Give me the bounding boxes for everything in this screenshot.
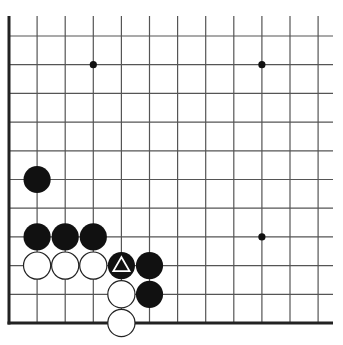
black-stone xyxy=(136,281,163,308)
black-stone xyxy=(80,223,107,250)
board-edges xyxy=(8,16,334,325)
star-point xyxy=(258,233,265,240)
star-point xyxy=(258,61,265,68)
black-stone xyxy=(136,252,163,279)
black-stone xyxy=(52,223,79,250)
star-point xyxy=(90,61,97,68)
white-stone xyxy=(80,252,107,279)
white-stone xyxy=(23,252,50,279)
white-stone xyxy=(108,309,135,336)
black-stone xyxy=(23,166,50,193)
black-stone xyxy=(108,252,135,279)
go-board xyxy=(0,0,343,345)
white-stone xyxy=(52,252,79,279)
white-stone xyxy=(108,281,135,308)
black-stone xyxy=(23,223,50,250)
